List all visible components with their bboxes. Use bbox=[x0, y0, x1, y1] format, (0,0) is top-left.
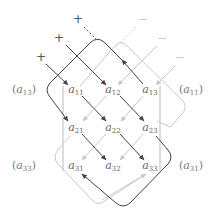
side-label-right-top: (a11) bbox=[179, 84, 203, 97]
minus-sign-1: − bbox=[138, 13, 148, 25]
entry-a32: a32 bbox=[105, 160, 120, 173]
side-label-left-top: (a13) bbox=[12, 84, 36, 97]
minus-sign-3: − bbox=[175, 51, 185, 63]
entry-a22: a22 bbox=[105, 122, 120, 135]
side-label-left-bottom: (a33) bbox=[12, 160, 36, 173]
plus-sign-2: + bbox=[54, 32, 64, 44]
side-label-right-bottom: (a31) bbox=[179, 160, 203, 173]
entry-a12: a12 bbox=[105, 84, 120, 97]
entry-a23: a23 bbox=[142, 122, 157, 135]
entry-a33: a33 bbox=[142, 160, 157, 173]
minus-sign-2: − bbox=[157, 32, 167, 44]
plus-sign-3: + bbox=[73, 13, 83, 25]
entry-a11: a11 bbox=[68, 84, 83, 97]
entry-a21: a21 bbox=[68, 122, 83, 135]
diagram-lines bbox=[0, 0, 215, 215]
sarrus-diagram: + + + − − − a11 a12 a13 a21 a22 a23 a31 … bbox=[0, 0, 215, 215]
entry-a13: a13 bbox=[142, 84, 157, 97]
plus-sign-1: + bbox=[36, 51, 46, 63]
entry-a31: a31 bbox=[68, 160, 83, 173]
